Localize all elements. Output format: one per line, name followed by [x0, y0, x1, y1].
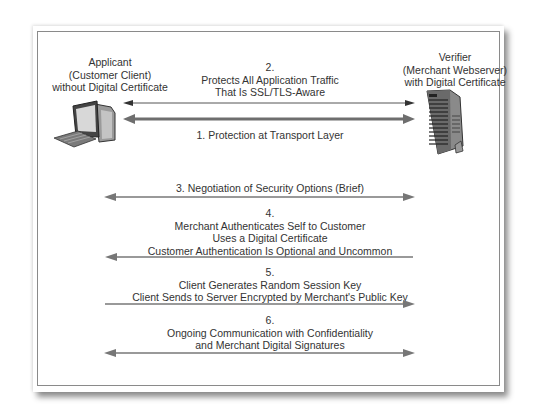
- step-6-arrow: [104, 349, 415, 357]
- step-4-arrow: [105, 253, 413, 261]
- step-1-arrow: [123, 114, 415, 124]
- step-5-arrow: [105, 300, 415, 308]
- step-2-arrow: [123, 100, 415, 106]
- arrows-layer: [0, 0, 535, 412]
- step-3-arrow: [104, 193, 415, 201]
- server-tower-icon: [427, 90, 463, 154]
- desktop-computer-icon: [54, 101, 115, 147]
